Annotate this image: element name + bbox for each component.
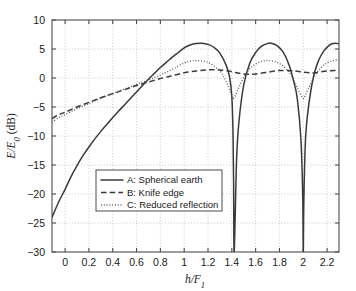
x-axis-title: h/F1 — [185, 273, 205, 290]
curve-a — [52, 43, 339, 252]
y-tick-label: 10 — [33, 14, 45, 26]
y-tick-label: −10 — [27, 130, 45, 142]
legend-entry-label: B: Knife edge — [127, 187, 184, 198]
data-curves — [52, 43, 339, 252]
x-tick-label: 1.8 — [272, 256, 287, 268]
x-tick-label: 0.4 — [105, 256, 120, 268]
y-tick-label: −30 — [27, 246, 45, 258]
y-tick-label: −20 — [27, 188, 45, 200]
grid-lines — [52, 20, 339, 252]
legend: A: Spherical earthB: Knife edgeC: Reduce… — [96, 170, 222, 211]
x-tick-label: 1.4 — [225, 256, 240, 268]
y-tick-label: 5 — [39, 43, 45, 55]
x-tick-label: 1.2 — [201, 256, 216, 268]
x-tick-label: 1 — [181, 256, 187, 268]
y-tick-label: −25 — [27, 217, 45, 229]
y-tick-label: −15 — [27, 159, 45, 171]
x-tick-label: 2 — [300, 256, 306, 268]
x-tick-label: 0.2 — [82, 256, 97, 268]
legend-entry-label: C: Reduced reflection — [127, 199, 218, 210]
x-tick-labels: 00.20.40.60.811.21.41.61.822.2 — [62, 256, 334, 268]
y-tick-label: −5 — [33, 101, 45, 113]
legend-entry-label: A: Spherical earth — [127, 174, 203, 185]
svg-text:h/F1: h/F1 — [185, 273, 205, 290]
chart-svg: 00.20.40.60.811.21.41.61.822.2 −30−25−20… — [0, 0, 356, 291]
figure-container: 00.20.40.60.811.21.41.61.822.2 −30−25−20… — [0, 0, 356, 291]
svg-text:E/E0 (dB): E/E0 (dB) — [5, 113, 22, 160]
y-tick-label: 0 — [39, 72, 45, 84]
x-tick-label: 2.2 — [320, 256, 335, 268]
x-tick-label: 0 — [62, 256, 68, 268]
x-tick-label: 1.6 — [248, 256, 263, 268]
x-tick-label: 0.6 — [129, 256, 144, 268]
y-tick-labels: −30−25−20−15−10−50510 — [27, 14, 45, 258]
y-axis-title: E/E0 (dB) — [5, 113, 22, 160]
x-tick-label: 0.8 — [153, 256, 168, 268]
